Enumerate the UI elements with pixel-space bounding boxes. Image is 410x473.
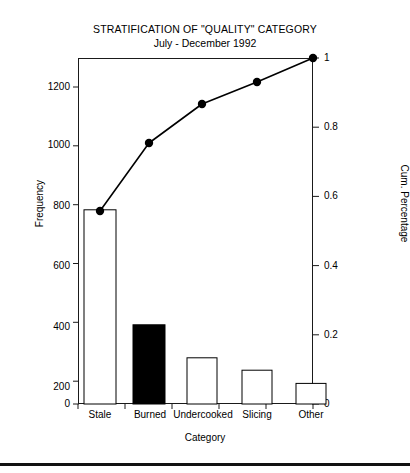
y2tick-label-0.4: 0.4 bbox=[324, 261, 364, 271]
xtick-label-other: Other bbox=[298, 409, 323, 420]
ytick-label-600: 600 bbox=[26, 261, 70, 271]
xtick-label-slicing: Slicing bbox=[242, 409, 271, 420]
ytick-label-1200: 1200 bbox=[26, 82, 70, 92]
ytick-label-1000: 1000 bbox=[26, 140, 70, 150]
xtick-label-stale: Stale bbox=[89, 409, 112, 420]
ytick-label-0: 0 bbox=[26, 399, 70, 409]
y2tick-label-0.2: 0.2 bbox=[324, 330, 364, 340]
page-bottom-rule bbox=[0, 463, 410, 466]
ytick-label-400: 400 bbox=[26, 322, 70, 332]
chart-title-block: STRATIFICATION OF "QUALITY" CATEGORY Jul… bbox=[0, 22, 410, 50]
xtick-label-undercooked: Undercooked bbox=[173, 409, 232, 420]
y2-axis-ticks bbox=[312, 58, 319, 404]
chart-title: STRATIFICATION OF "QUALITY" CATEGORY bbox=[0, 22, 410, 36]
y2-axis-title: Cum. Percentage bbox=[399, 144, 410, 264]
y2tick-label-0.6: 0.6 bbox=[324, 191, 364, 201]
y2tick-label-0.8: 0.8 bbox=[324, 122, 364, 132]
y2tick-label-1: 1 bbox=[324, 53, 364, 63]
y-axis-title: Frequency bbox=[34, 159, 45, 249]
x-axis-title: Category bbox=[0, 432, 410, 443]
y2tick-label-0: 0 bbox=[324, 399, 364, 409]
ytick-label-200: 200 bbox=[26, 382, 70, 392]
xtick-label-burned: Burned bbox=[134, 409, 166, 420]
chart-subtitle: July - December 1992 bbox=[0, 36, 410, 50]
pareto-chart-figure: STRATIFICATION OF "QUALITY" CATEGORY Jul… bbox=[0, 0, 410, 473]
plot-area bbox=[78, 58, 313, 404]
